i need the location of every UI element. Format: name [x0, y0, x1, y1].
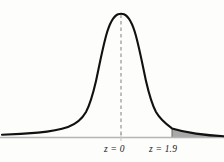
- axis-label-cutoff: z = 1.9: [149, 145, 177, 155]
- normal-distribution-figure: z = 0 z = 1.9: [0, 0, 224, 162]
- axis-label-center: z = 0: [104, 145, 125, 155]
- distribution-plot: [0, 0, 224, 162]
- bell-curve: [2, 14, 224, 136]
